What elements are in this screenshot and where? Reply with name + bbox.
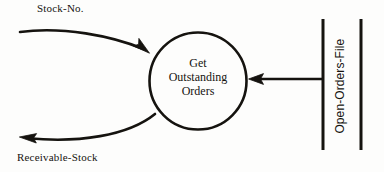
receivable-stock-flow-label: Receivable-Stock	[17, 152, 98, 163]
stock-no-flow-arrowhead	[134, 38, 150, 53]
process-label-line-1: Get	[149, 57, 247, 71]
process-label: Get Outstanding Orders	[149, 57, 247, 99]
stock-no-flow-label: Stock-No.	[37, 3, 84, 14]
process-label-line-3: Orders	[149, 85, 247, 99]
process-label-line-2: Outstanding	[149, 71, 247, 85]
diagram-canvas: Stock-No. Receivable-Stock Get Outstandi…	[0, 0, 384, 172]
data-store-label-text: Open-Orders-File	[334, 39, 346, 134]
receivable-stock-flow-line	[28, 114, 155, 140]
data-store-label: Open-Orders-File	[330, 0, 350, 172]
receivable-stock-flow-arrowhead	[19, 134, 36, 143]
stock-no-flow-line	[20, 30, 144, 49]
